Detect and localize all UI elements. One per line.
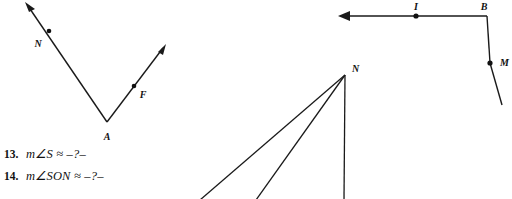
arrowhead-ray-AN [25, 2, 35, 12]
point-dot-M [487, 60, 492, 65]
three-rays-from-N-figure: N [200, 63, 360, 199]
exercise-number-13: 13. [4, 148, 26, 160]
ray-A-to-N [28, 6, 107, 122]
point-label-F: F [139, 89, 147, 100]
point-label-N: N [33, 38, 42, 49]
point-label-I: I [413, 1, 419, 12]
point-label-A: A [103, 131, 111, 142]
exercise-item-14: 14. m∠SON ≈ –?– [4, 168, 194, 190]
point-dot-I [413, 13, 418, 18]
point-label-M: M [499, 57, 510, 68]
ray-N-left [200, 75, 345, 199]
ray-N-middle [256, 75, 345, 199]
path-I-B-M-figure: I B M [338, 1, 510, 105]
exercise-text-14: m∠SON ≈ –?– [26, 168, 104, 184]
ray-N-vertical [344, 75, 345, 199]
point-label-N-vertex: N [351, 63, 360, 74]
exercise-text-13: m∠S ≈ –?– [26, 146, 86, 162]
point-dot-N [47, 29, 52, 34]
angle-NAF-figure: N F A [25, 2, 166, 142]
point-label-B: B [480, 1, 488, 12]
exercise-item-13: 13. m∠S ≈ –?– [4, 146, 194, 168]
segment-B-to-M [487, 16, 490, 63]
exercise-list: 13. m∠S ≈ –?– 14. m∠SON ≈ –?– [4, 146, 194, 190]
point-dot-F [132, 84, 137, 89]
exercise-number-14: 14. [4, 170, 26, 182]
arrowhead-ray-left [338, 11, 350, 21]
segment-M-downward [490, 63, 502, 105]
